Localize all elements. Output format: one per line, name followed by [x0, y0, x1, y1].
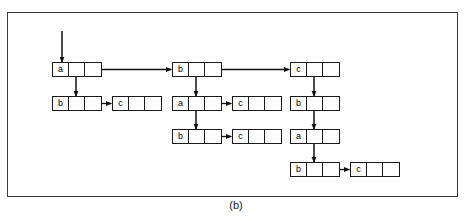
node-down-pointer-cell	[307, 63, 323, 76]
node-next-pointer-cell	[205, 97, 221, 110]
node-label-cell: c	[233, 130, 249, 143]
figure-caption: (b)	[0, 199, 472, 211]
node-label-cell: a	[173, 97, 189, 110]
node-down-pointer-cell	[189, 130, 205, 143]
list-node-n11: a	[290, 129, 340, 144]
node-next-pointer-cell	[323, 63, 339, 76]
node-down-pointer-cell	[189, 97, 205, 110]
node-down-pointer-cell	[307, 163, 323, 176]
node-next-pointer-cell	[323, 130, 339, 143]
list-node-n7: b	[172, 129, 222, 144]
list-node-n13: c	[350, 162, 400, 177]
node-down-pointer-cell	[249, 97, 265, 110]
node-next-pointer-cell	[85, 63, 101, 76]
list-node-n9: c	[290, 62, 340, 77]
node-next-pointer-cell	[205, 63, 221, 76]
node-label-cell: b	[173, 63, 189, 76]
list-node-n1: a	[52, 62, 102, 77]
node-label-cell: a	[53, 63, 69, 76]
node-down-pointer-cell	[249, 130, 265, 143]
node-down-pointer-cell	[307, 130, 323, 143]
node-down-pointer-cell	[69, 97, 85, 110]
list-node-n12: b	[290, 162, 340, 177]
node-down-pointer-cell	[69, 63, 85, 76]
node-down-pointer-cell	[307, 97, 323, 110]
node-label-cell: c	[351, 163, 367, 176]
node-label-cell: c	[291, 63, 307, 76]
node-next-pointer-cell	[205, 130, 221, 143]
list-node-n2: b	[52, 96, 102, 111]
node-label-cell: b	[291, 163, 307, 176]
node-down-pointer-cell	[189, 63, 205, 76]
node-label-cell: b	[291, 97, 307, 110]
list-node-n3: c	[112, 96, 162, 111]
node-label-cell: b	[173, 130, 189, 143]
list-node-n4: b	[172, 62, 222, 77]
node-next-pointer-cell	[383, 163, 399, 176]
node-next-pointer-cell	[265, 97, 281, 110]
node-next-pointer-cell	[323, 163, 339, 176]
node-down-pointer-cell	[367, 163, 383, 176]
node-next-pointer-cell	[145, 97, 161, 110]
node-label-cell: c	[113, 97, 129, 110]
node-label-cell: c	[233, 97, 249, 110]
node-next-pointer-cell	[85, 97, 101, 110]
node-down-pointer-cell	[129, 97, 145, 110]
list-node-n6: c	[232, 96, 282, 111]
list-node-n5: a	[172, 96, 222, 111]
node-label-cell: a	[291, 130, 307, 143]
node-next-pointer-cell	[265, 130, 281, 143]
node-next-pointer-cell	[323, 97, 339, 110]
list-node-n10: b	[290, 96, 340, 111]
list-node-n8: c	[232, 129, 282, 144]
node-label-cell: b	[53, 97, 69, 110]
